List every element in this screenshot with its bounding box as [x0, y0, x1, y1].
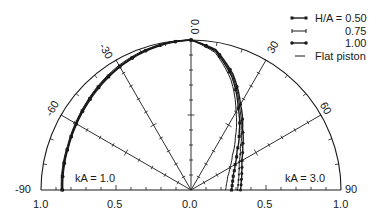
- angle-label-neg90: -90: [15, 183, 31, 195]
- legend-item-ha-050: H/A = 0.50: [291, 12, 367, 24]
- legend-label-flat-piston: Flat piston: [315, 50, 366, 62]
- legend-label-ha-050: H/A = 0.50: [315, 12, 367, 24]
- legend-label-ha-100: 1.00: [345, 37, 366, 49]
- polar-grid: [41, 40, 341, 190]
- legend: H/A = 0.50 0.75 1.00 Flat piston: [290, 12, 366, 62]
- radial-label-right-1: 1.0: [333, 198, 348, 210]
- legend-label-ha-075: 0.75: [345, 25, 366, 37]
- angle-label-30: 30: [264, 39, 281, 56]
- directivity-curves: [61, 39, 245, 192]
- curve-h-a-0-50: [191, 40, 240, 190]
- angle-label-90: 90: [345, 183, 357, 195]
- angle-label-neg60: -60: [43, 98, 61, 118]
- radial-label-center: 0.0: [182, 198, 197, 210]
- radial-label-left-05: 0.5: [107, 198, 122, 210]
- curve-h-a-1-00: [63, 40, 191, 190]
- legend-item-ha-100: 1.00: [290, 37, 366, 49]
- curve-flat-piston: [191, 40, 237, 190]
- legend-item-ha-075: 0.75: [292, 25, 366, 37]
- radial-label-right-05: 0.5: [257, 198, 272, 210]
- angle-label-0: 0.0: [189, 19, 201, 34]
- angle-label-neg30: -30: [97, 41, 115, 61]
- legend-item-flat-piston: Flat piston: [295, 50, 366, 62]
- annotation-ka-3: kA = 3.0: [285, 172, 325, 184]
- radial-label-left-1: 1.0: [33, 198, 48, 210]
- polar-directivity-chart: -90 -60 -30 0.0 30 60 90 1.0 0.5 0.0 0.5…: [0, 0, 381, 219]
- annotation-ka-1: kA = 1.0: [75, 172, 115, 184]
